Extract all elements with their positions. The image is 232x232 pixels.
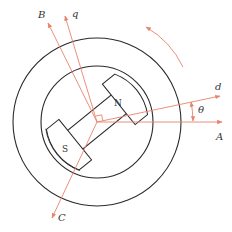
label-C: C — [58, 212, 66, 223]
north-pole-label: N — [114, 98, 122, 108]
label-A: A — [215, 131, 223, 142]
label-d: d — [215, 81, 221, 92]
label-q: q — [72, 8, 78, 19]
theta-arc — [191, 102, 193, 121]
south-pole-label: S — [62, 144, 68, 154]
rotation-arrow — [146, 27, 183, 67]
motor-diagram: N S A d q B C θ — [0, 0, 232, 232]
axis-q — [65, 16, 97, 122]
label-B: B — [37, 9, 45, 20]
label-theta: θ — [198, 104, 204, 115]
